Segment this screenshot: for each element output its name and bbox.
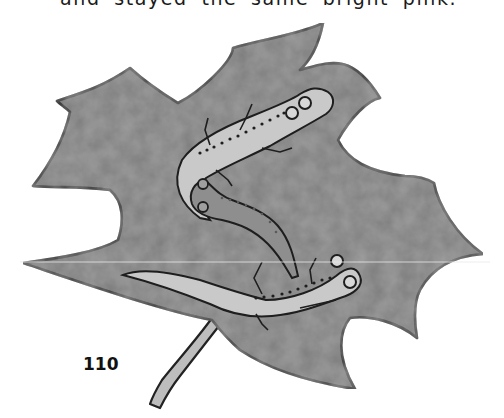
salamander-eye	[331, 255, 343, 267]
leaf-stem	[150, 318, 222, 408]
salamander-eye	[198, 179, 208, 189]
salamander-eye	[344, 276, 356, 288]
maple-leaf	[23, 23, 483, 389]
page-number: 110	[83, 354, 119, 374]
salamander-eye	[198, 202, 208, 212]
salamander-eye	[299, 97, 311, 109]
salamander-eye	[286, 107, 298, 119]
leaf-salamander-illustration	[0, 0, 504, 418]
